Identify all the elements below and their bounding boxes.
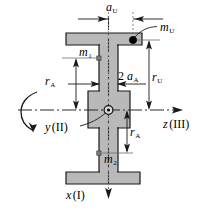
label-m-u: mU: [160, 21, 174, 33]
rotation-arc: [21, 92, 37, 133]
balance-mass-2-marker: [97, 151, 101, 155]
label-r-a-lower: rA: [130, 126, 140, 138]
label-r-u: rU: [152, 71, 162, 83]
rotor-diagram: aU mU m1 2 aA rU rA y(II) z(III) rA m2 x…: [0, 0, 208, 212]
label-m-2: m2: [104, 153, 117, 165]
label-axis-x: x(I): [66, 189, 85, 201]
label-2a-a: 2 aA: [118, 70, 139, 82]
label-m-1: m1: [79, 46, 92, 58]
diagram-canvas: [0, 0, 208, 212]
label-axis-y: y(II): [45, 121, 68, 133]
balance-mass-1-marker: [97, 56, 101, 60]
unbalance-mass-u-marker: [129, 36, 136, 43]
bottom-flange: [66, 172, 140, 184]
label-axis-z: z(III): [163, 118, 189, 130]
label-a-u: aU: [106, 1, 118, 13]
label-r-a-upper: rA: [45, 75, 55, 87]
